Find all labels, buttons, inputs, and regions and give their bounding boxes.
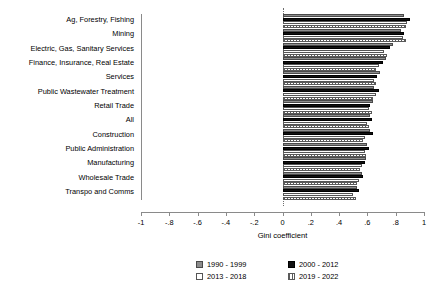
bar xyxy=(283,186,358,189)
bar xyxy=(283,107,369,110)
x-axis-tick-label: .4 xyxy=(325,218,353,227)
x-axis-tick-label: -.4 xyxy=(212,218,240,227)
category-label: Public Wastewater Treatment xyxy=(38,88,134,96)
x-axis-tick xyxy=(283,212,284,216)
plot-area xyxy=(141,8,424,206)
bar xyxy=(283,71,381,74)
legend-swatch-icon xyxy=(288,273,295,280)
x-axis-tick-label: .6 xyxy=(353,218,381,227)
bar xyxy=(283,129,371,132)
legend-label: 2013 - 2018 xyxy=(207,272,246,281)
bar xyxy=(283,104,371,107)
bar-group xyxy=(141,85,424,99)
bar-group xyxy=(141,186,424,200)
legend-item: 2000 - 2012 xyxy=(288,260,380,269)
x-axis-tick-label: 1 xyxy=(410,218,435,227)
category-axis-labels: Ag, Forestry, FishingMiningElectric, Gas… xyxy=(0,14,138,200)
bar xyxy=(283,32,405,35)
legend-item: 1990 - 1999 xyxy=(196,260,288,269)
x-axis-tick xyxy=(226,212,227,216)
x-axis-tick xyxy=(141,212,142,216)
bar xyxy=(283,197,357,200)
bar xyxy=(283,175,364,178)
bar xyxy=(283,89,379,92)
bar-group xyxy=(141,14,424,28)
gini-coefficient-bar-chart: Ag, Forestry, FishingMiningElectric, Gas… xyxy=(0,0,435,294)
x-axis-tick xyxy=(254,212,255,216)
bar-group xyxy=(141,28,424,42)
bar-group xyxy=(141,143,424,157)
bar-group xyxy=(141,128,424,142)
x-axis-tick-label: -.2 xyxy=(240,218,268,227)
bar-rows xyxy=(141,14,424,200)
x-axis-tick xyxy=(367,212,368,216)
x-axis-tick-label: -.8 xyxy=(155,218,183,227)
bar xyxy=(283,50,385,53)
legend-label: 1990 - 1999 xyxy=(207,260,246,269)
bar xyxy=(283,79,375,82)
category-label: Retail Trade xyxy=(94,102,134,110)
bar xyxy=(283,93,376,96)
category-label: Transpo and Comms xyxy=(65,188,134,196)
bar xyxy=(283,14,405,17)
bar xyxy=(283,132,374,135)
category-label: Wholesale Trade xyxy=(79,174,134,182)
bar xyxy=(283,100,374,103)
bar xyxy=(283,164,362,167)
bar xyxy=(283,143,368,146)
bar-group xyxy=(141,100,424,114)
category-label: Electric, Gas, Sanitary Services xyxy=(30,45,134,53)
x-axis-tick xyxy=(424,212,425,216)
bar xyxy=(283,18,410,21)
category-label: All xyxy=(126,116,134,124)
bar xyxy=(283,122,368,125)
bar xyxy=(283,64,379,67)
bar-group xyxy=(141,171,424,185)
bar xyxy=(283,179,359,182)
category-label: Public Administration xyxy=(65,145,134,153)
legend-label: 2000 - 2012 xyxy=(299,260,338,269)
bar xyxy=(283,29,402,32)
bar xyxy=(283,57,386,60)
x-axis-title: Gini coefficient xyxy=(141,231,424,240)
legend-swatch-icon xyxy=(288,261,295,268)
bar xyxy=(283,161,365,164)
bar xyxy=(283,150,365,153)
bar xyxy=(283,189,359,192)
bar xyxy=(283,118,372,121)
x-axis-tick xyxy=(339,212,340,216)
x-axis-tick-label: .8 xyxy=(382,218,410,227)
x-axis-tick-label: -1 xyxy=(127,218,155,227)
bar-group xyxy=(141,71,424,85)
bar-group xyxy=(141,57,424,71)
legend-item: 2019 - 2022 xyxy=(288,272,380,281)
category-label: Mining xyxy=(112,30,134,38)
bar-group xyxy=(141,114,424,128)
bar xyxy=(283,147,369,150)
category-label: Ag, Forestry, Fishing xyxy=(66,16,134,24)
legend-swatch-icon xyxy=(196,273,203,280)
bar xyxy=(283,172,362,175)
legend-label: 2019 - 2022 xyxy=(299,272,338,281)
bar xyxy=(283,36,403,39)
bar xyxy=(283,86,375,89)
chart-legend: 1990 - 19992000 - 20122013 - 20182019 - … xyxy=(196,258,386,282)
bar xyxy=(283,114,371,117)
bar xyxy=(283,21,408,24)
legend-item: 2013 - 2018 xyxy=(196,272,288,281)
legend-swatch-icon xyxy=(196,261,203,268)
bar xyxy=(283,157,366,160)
bar xyxy=(283,46,391,49)
x-axis-tick-label: 0 xyxy=(269,218,297,227)
x-axis-tick xyxy=(396,212,397,216)
x-axis-tick xyxy=(311,212,312,216)
bar xyxy=(283,193,354,196)
x-axis-tick xyxy=(169,212,170,216)
bar-group xyxy=(141,157,424,171)
bar-group xyxy=(141,43,424,57)
bar xyxy=(283,61,383,64)
x-axis-tick-label: -.6 xyxy=(184,218,212,227)
x-axis-tick-label: .2 xyxy=(297,218,325,227)
category-label: Finance, Insurance, Real Estate xyxy=(29,59,134,67)
bar xyxy=(283,75,378,78)
